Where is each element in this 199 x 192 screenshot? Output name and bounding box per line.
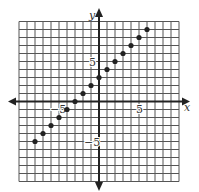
y-tick-label: 5 [89, 56, 96, 69]
data-point [32, 139, 37, 144]
data-point [136, 35, 141, 40]
data-point [64, 107, 69, 112]
data-point [128, 43, 133, 48]
data-point [48, 123, 53, 128]
x-axis-left-arrow-icon [8, 98, 16, 106]
x-tick-label: 5 [136, 103, 143, 116]
data-point [96, 75, 101, 80]
x-tick-label: −5 [50, 103, 66, 116]
y-axis-label: y [88, 9, 96, 22]
data-point [144, 27, 149, 32]
data-point [56, 115, 61, 120]
y-axis-up-arrow-icon [95, 8, 103, 17]
data-point [80, 91, 85, 96]
data-point [104, 67, 109, 72]
data-point [40, 131, 45, 136]
x-axis-label: x [184, 101, 191, 114]
y-tick-label: −5 [84, 136, 100, 149]
y-axis-down-arrow-icon [95, 182, 103, 191]
data-point [72, 99, 77, 104]
coordinate-plane: −555−5 x y [0, 0, 199, 192]
data-point [120, 51, 125, 56]
data-point [88, 83, 93, 88]
data-point [112, 59, 117, 64]
